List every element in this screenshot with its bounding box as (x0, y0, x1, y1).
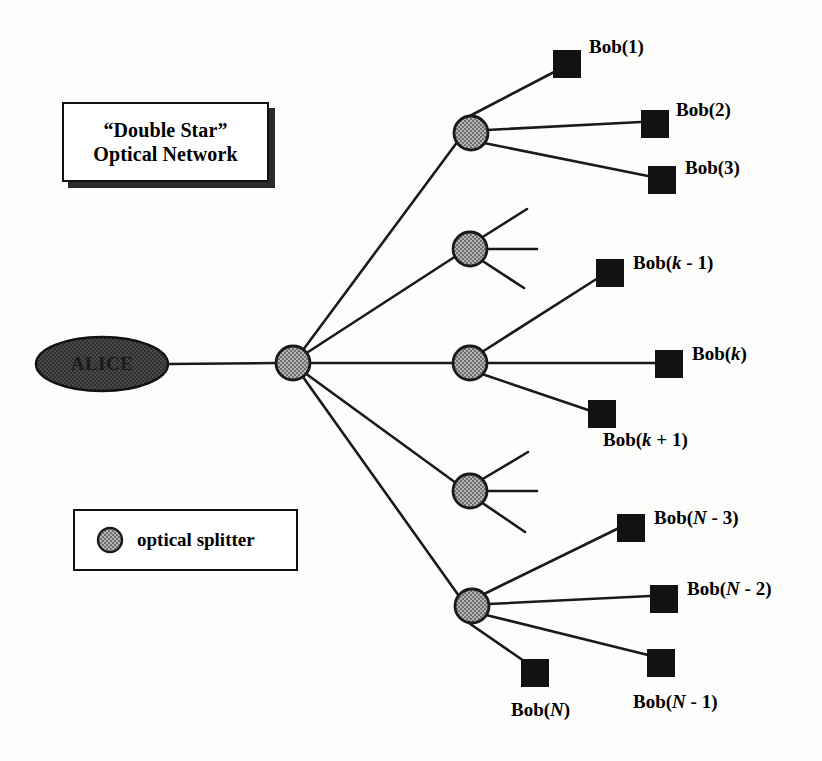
edge-central-to-splitter-2 (305, 256, 456, 354)
edge-splitter-1-to-bob-2 (487, 122, 641, 130)
terminal-label-bob-k+1: Bob(k + 1) (603, 429, 688, 451)
optical-splitter-circle-icon (96, 526, 124, 554)
edge-group-splitter-4-stubs (481, 452, 537, 532)
terminal-square-bob-N[interactable] (521, 659, 549, 687)
optical-splitter-5[interactable] (455, 589, 489, 623)
terminal-label-bob-N: Bob(N) (511, 699, 570, 721)
terminal-label-bob-1: Bob(1) (589, 36, 644, 58)
terminal-label-bob-k-1: Bob(k - 1) (633, 252, 713, 274)
edge-central-to-splitter-1 (303, 141, 458, 350)
terminal-square-bob-k-1[interactable] (596, 259, 624, 287)
terminal-square-bob-N-3[interactable] (617, 514, 645, 542)
legend-label: optical splitter (137, 529, 255, 551)
edge-group-splitter-2-stubs (481, 209, 537, 288)
terminal-label-bob-2: Bob(2) (676, 99, 731, 121)
figure-title-line-2: Optical Network (93, 142, 237, 166)
figure-title-callout: “Double Star” Optical Network (62, 102, 269, 182)
stub-splitter-2-c (481, 260, 524, 288)
edge-splitter-5-to-bob-N (466, 621, 524, 661)
edge-group-splitter-3 (482, 278, 655, 412)
optical-splitter-1[interactable] (454, 116, 488, 150)
terminal-label-bob-N-1: Bob(N - 1) (633, 691, 717, 713)
terminal-label-bob-N-2: Bob(N - 2) (687, 578, 771, 600)
edge-splitter-5-to-bob-N-2 (489, 596, 650, 604)
terminal-label-bob-k: Bob(k) (692, 343, 747, 365)
alice-source-node[interactable] (36, 337, 168, 391)
central-optical-splitter[interactable] (276, 346, 310, 380)
terminal-square-bob-k[interactable] (655, 350, 683, 378)
edge-alice-to-central (168, 363, 278, 364)
edge-group-splitter-1 (462, 71, 648, 176)
stub-splitter-4-c (481, 502, 525, 532)
terminal-square-bob-1[interactable] (553, 50, 581, 78)
edge-splitter-5-to-bob-N-3 (484, 528, 619, 594)
terminal-square-bob-2[interactable] (641, 110, 669, 138)
figure-canvas: ALICE “Double Star” Optical Network opti… (0, 0, 822, 761)
terminal-square-bob-N-2[interactable] (650, 585, 678, 613)
terminal-square-bob-3[interactable] (648, 166, 676, 194)
optical-splitter-4[interactable] (453, 474, 487, 508)
optical-splitter-2[interactable] (453, 232, 487, 266)
terminal-square-bob-k+1[interactable] (588, 400, 616, 428)
legend: optical splitter (73, 509, 298, 571)
edge-splitter-1-to-bob-1 (462, 71, 556, 120)
edge-splitter-1-to-bob-3 (484, 143, 648, 176)
figure-title-line-1: “Double Star” (103, 118, 227, 142)
terminal-label-bob-N-3: Bob(N - 3) (654, 507, 738, 529)
stub-splitter-4-a (481, 452, 528, 480)
edge-splitter-3-to-bob-k+1 (482, 374, 594, 412)
edge-group-splitter-5 (466, 528, 650, 661)
edge-central-to-splitter-4 (305, 373, 456, 483)
edge-central-to-splitter-5 (303, 377, 459, 596)
optical-splitter-3[interactable] (453, 346, 487, 380)
edge-splitter-5-to-bob-N-1 (486, 615, 648, 655)
terminal-label-bob-3: Bob(3) (685, 157, 740, 179)
stub-splitter-2-a (481, 209, 527, 238)
terminal-square-bob-N-1[interactable] (647, 649, 675, 677)
edge-splitter-3-to-bob-k-1 (482, 278, 598, 352)
